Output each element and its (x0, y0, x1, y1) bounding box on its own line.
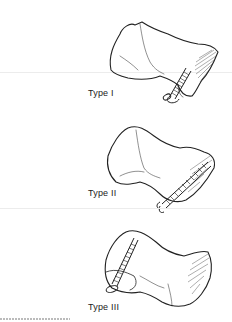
panel-type-1: Type I (0, 0, 232, 110)
bone-illustration-type-1 (0, 0, 232, 110)
bone-illustration-type-2 (0, 110, 232, 220)
scan-artifact-strip (0, 318, 70, 320)
panel-label-type-2: Type II (88, 188, 116, 198)
panel-label-type-3: Type III (88, 302, 119, 312)
faint-divider (0, 208, 232, 209)
panel-type-3: Type III (0, 220, 232, 322)
panel-type-2: Type II (0, 110, 232, 220)
panel-label-type-1: Type I (88, 88, 114, 98)
